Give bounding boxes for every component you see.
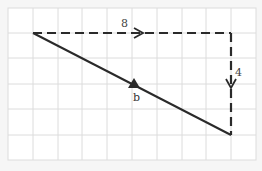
vertical-label: 4 (235, 66, 242, 79)
resultant-label: b (133, 91, 140, 104)
vector-diagram: 8 4 b (0, 0, 262, 171)
horizontal-label: 8 (121, 17, 128, 30)
